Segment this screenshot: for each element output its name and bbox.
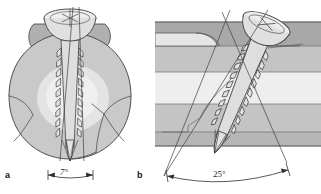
- figure-illustration: [0, 0, 321, 194]
- panel-b-arrowheads: [167, 169, 288, 179]
- panel-b-angle-label: 25°: [213, 170, 226, 179]
- panel-b-angle-dimension: [167, 170, 288, 182]
- panel-a-label: a: [5, 171, 10, 180]
- panel-a-group: [9, 7, 131, 180]
- figure-container: a b 7° 25°: [0, 0, 321, 194]
- panel-b-group: [155, 6, 321, 182]
- layer-cortical-lower: [155, 132, 321, 146]
- panel-a-angle-label: 7°: [60, 168, 68, 177]
- panel-b-label: b: [137, 171, 143, 180]
